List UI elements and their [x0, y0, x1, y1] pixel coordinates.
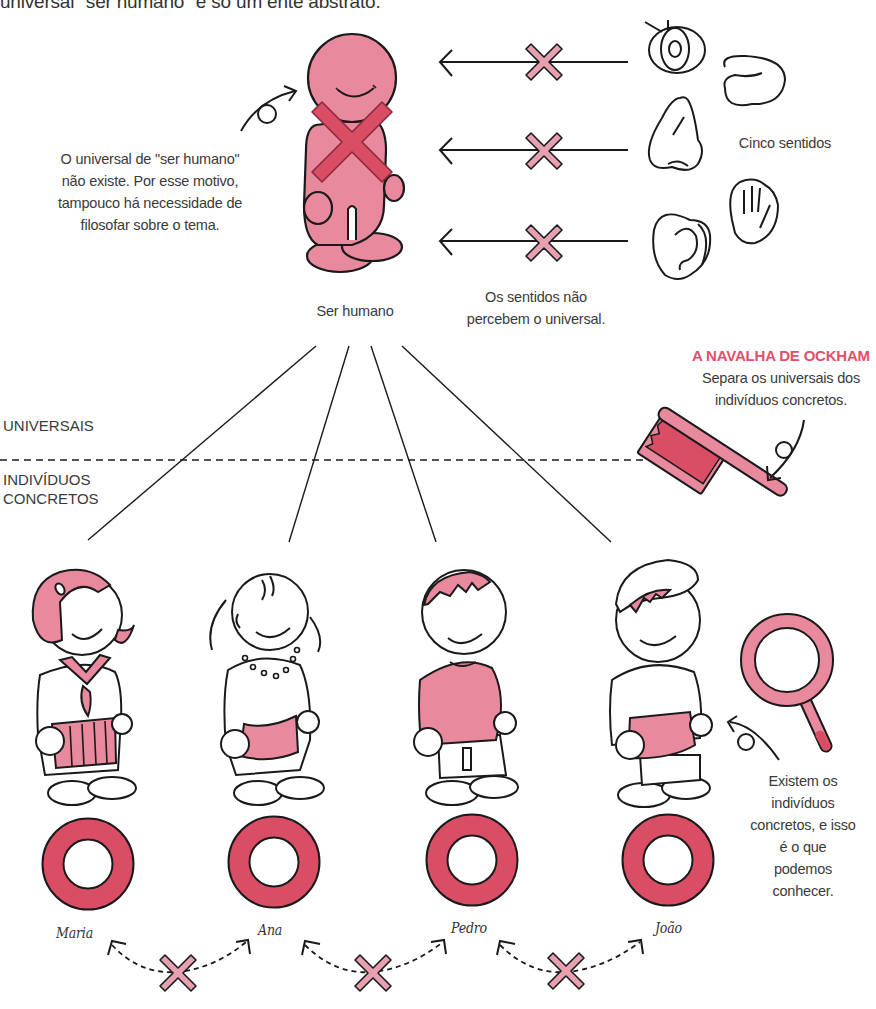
note-line: filosofar sobre o tema. — [25, 214, 275, 236]
universal-human-figure — [304, 34, 404, 272]
caption-line: indivíduos — [750, 792, 856, 814]
nose-icon — [649, 97, 702, 170]
individual-figure-ana — [210, 574, 324, 805]
individual-figure-pedro — [414, 570, 518, 805]
individuals-label: INDIVÍDUOS CONCRETOS — [3, 470, 99, 508]
tongue-icon — [724, 56, 785, 105]
caption-line: é o que podemos — [750, 836, 856, 880]
razor-icon — [634, 405, 789, 532]
caption-line: concretos, e isso — [750, 814, 856, 836]
ear-icon — [653, 214, 710, 279]
label-line: INDIVÍDUOS — [3, 470, 99, 489]
note-line: tampouco há necessidade de — [25, 192, 275, 214]
curly-arrow-icon — [241, 86, 296, 131]
individual-name-maria: Maria — [56, 925, 93, 941]
magnifier-caption: Existem os indivíduos concretos, e isso … — [750, 770, 856, 902]
blocked-x-icon — [548, 953, 584, 989]
dashed-relation-arrowheads — [108, 940, 643, 955]
senses-label: Cinco sentidos — [730, 132, 840, 154]
razor-caption-block: A NAVALHA DE OCKHAM Separa os universais… — [686, 345, 876, 411]
note-line: não existe. Por esse motivo, — [25, 170, 275, 192]
label-line: CONCRETOS — [3, 489, 99, 508]
individual-name-ana: Ana — [258, 922, 282, 938]
figure-label-ser-humano: Ser humano — [300, 300, 410, 322]
existence-rings — [53, 825, 703, 899]
individual-figure-maria — [33, 570, 136, 805]
connection-lines — [88, 346, 611, 542]
blocked-x-icon — [160, 955, 196, 991]
universal-note: O universal de "ser humano" não existe. … — [25, 148, 275, 236]
caption-line: Os sentidos não — [456, 286, 616, 308]
blocked-x-icon — [355, 955, 391, 991]
blocked-x-icon — [526, 225, 562, 261]
eye-icon — [645, 20, 705, 73]
curly-arrow-icon — [728, 716, 779, 760]
caption-line: Separa os universais dos — [686, 367, 876, 389]
caption-line: indivíduos concretos. — [686, 389, 876, 411]
sense-arrows — [440, 50, 628, 255]
magnifier-icon — [748, 621, 826, 746]
universals-label: UNIVERSAIS — [3, 416, 94, 435]
individual-figure-joao — [610, 560, 712, 807]
curly-arrow-icon — [767, 420, 804, 480]
caption-line: Existem os — [750, 770, 856, 792]
individual-name-joao: João — [655, 920, 682, 936]
note-line: O universal de "ser humano" — [25, 148, 275, 170]
hand-icon — [730, 180, 778, 244]
individual-name-pedro: Pedro — [451, 920, 487, 936]
ockham-razor-diagram: universal "ser humano" é só um ente abst… — [0, 0, 876, 1009]
razor-title: A NAVALHA DE OCKHAM — [686, 345, 876, 367]
caption-line: conhecer. — [750, 880, 856, 902]
caption-line: percebem o universal. — [456, 308, 616, 330]
senses-caption: Os sentidos não percebem o universal. — [456, 286, 616, 330]
